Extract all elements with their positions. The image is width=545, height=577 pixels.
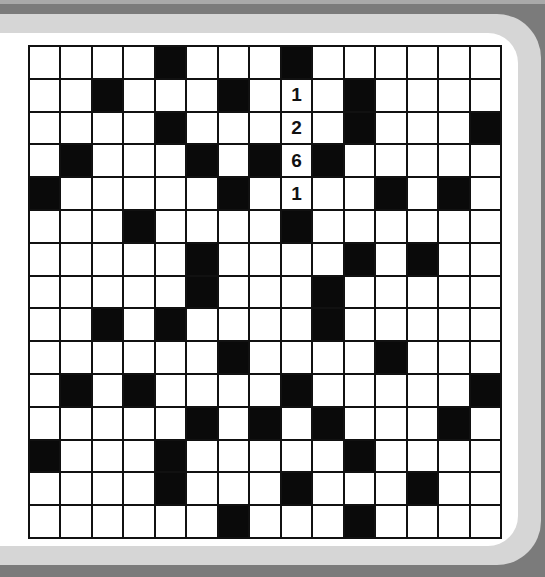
- grid-cell[interactable]: [124, 342, 153, 373]
- grid-cell[interactable]: [61, 506, 90, 537]
- grid-cell[interactable]: [408, 506, 437, 537]
- grid-cell[interactable]: [408, 408, 437, 439]
- grid-cell[interactable]: [124, 473, 153, 504]
- grid-cell[interactable]: [124, 408, 153, 439]
- grid-cell[interactable]: [250, 211, 279, 242]
- grid-cell[interactable]: [313, 80, 342, 111]
- grid-cell[interactable]: [250, 375, 279, 406]
- grid-cell[interactable]: [250, 309, 279, 340]
- grid-cell[interactable]: 2: [282, 113, 311, 144]
- grid-cell[interactable]: 6: [282, 145, 311, 176]
- grid-cell[interactable]: [471, 145, 500, 176]
- grid-cell[interactable]: [471, 80, 500, 111]
- grid-cell[interactable]: [250, 441, 279, 472]
- grid-cell[interactable]: [345, 47, 374, 78]
- grid-cell[interactable]: [250, 342, 279, 373]
- grid-cell[interactable]: [156, 244, 185, 275]
- grid-cell[interactable]: [219, 441, 248, 472]
- grid-cell[interactable]: [219, 145, 248, 176]
- grid-cell[interactable]: [187, 80, 216, 111]
- grid-cell[interactable]: [376, 244, 405, 275]
- grid-cell[interactable]: [187, 441, 216, 472]
- grid-cell[interactable]: [219, 277, 248, 308]
- grid-cell[interactable]: [282, 244, 311, 275]
- grid-cell[interactable]: [156, 178, 185, 209]
- grid-cell[interactable]: [219, 47, 248, 78]
- grid-cell[interactable]: [61, 47, 90, 78]
- grid-cell[interactable]: [250, 113, 279, 144]
- grid-cell[interactable]: [376, 211, 405, 242]
- grid-cell[interactable]: [124, 113, 153, 144]
- grid-cell[interactable]: [219, 244, 248, 275]
- grid-cell[interactable]: [376, 441, 405, 472]
- grid-cell[interactable]: [30, 506, 59, 537]
- grid-cell[interactable]: [93, 342, 122, 373]
- grid-cell[interactable]: [93, 441, 122, 472]
- grid-cell[interactable]: 1: [282, 178, 311, 209]
- grid-cell[interactable]: [282, 408, 311, 439]
- grid-cell[interactable]: [439, 244, 468, 275]
- grid-cell[interactable]: [439, 211, 468, 242]
- grid-cell[interactable]: [156, 277, 185, 308]
- grid-cell[interactable]: [187, 47, 216, 78]
- grid-cell[interactable]: [471, 244, 500, 275]
- grid-cell[interactable]: [30, 244, 59, 275]
- grid-cell[interactable]: [471, 277, 500, 308]
- grid-cell[interactable]: [124, 47, 153, 78]
- grid-cell[interactable]: [219, 408, 248, 439]
- grid-cell[interactable]: [408, 309, 437, 340]
- grid-cell[interactable]: [187, 178, 216, 209]
- grid-cell[interactable]: [250, 47, 279, 78]
- grid-cell[interactable]: [408, 113, 437, 144]
- grid-cell[interactable]: [313, 441, 342, 472]
- grid-cell[interactable]: [439, 80, 468, 111]
- grid-cell[interactable]: [93, 244, 122, 275]
- grid-cell[interactable]: [124, 178, 153, 209]
- grid-cell[interactable]: [61, 408, 90, 439]
- grid-cell[interactable]: [376, 113, 405, 144]
- grid-cell[interactable]: [439, 47, 468, 78]
- grid-cell[interactable]: [471, 309, 500, 340]
- grid-cell[interactable]: [61, 244, 90, 275]
- grid-cell[interactable]: [93, 145, 122, 176]
- grid-cell[interactable]: [219, 211, 248, 242]
- grid-cell[interactable]: [124, 244, 153, 275]
- grid-cell[interactable]: [471, 408, 500, 439]
- grid-cell[interactable]: [61, 211, 90, 242]
- grid-cell[interactable]: [408, 145, 437, 176]
- grid-cell[interactable]: [219, 309, 248, 340]
- grid-cell[interactable]: [156, 342, 185, 373]
- grid-cell[interactable]: [124, 309, 153, 340]
- grid-cell[interactable]: [471, 441, 500, 472]
- grid-cell[interactable]: [439, 309, 468, 340]
- grid-cell[interactable]: [250, 80, 279, 111]
- grid-cell[interactable]: [408, 342, 437, 373]
- grid-cell[interactable]: [471, 506, 500, 537]
- grid-cell[interactable]: [282, 441, 311, 472]
- grid-cell[interactable]: [30, 408, 59, 439]
- grid-cell[interactable]: [30, 277, 59, 308]
- grid-cell[interactable]: [124, 441, 153, 472]
- grid-cell[interactable]: [124, 277, 153, 308]
- grid-cell[interactable]: [471, 211, 500, 242]
- grid-cell[interactable]: [408, 211, 437, 242]
- grid-cell[interactable]: [345, 342, 374, 373]
- grid-cell[interactable]: [30, 145, 59, 176]
- grid-cell[interactable]: 1: [282, 80, 311, 111]
- grid-cell[interactable]: [408, 441, 437, 472]
- grid-cell[interactable]: [345, 309, 374, 340]
- grid-cell[interactable]: [250, 277, 279, 308]
- grid-cell[interactable]: [408, 47, 437, 78]
- grid-cell[interactable]: [187, 113, 216, 144]
- grid-cell[interactable]: [313, 375, 342, 406]
- grid-cell[interactable]: [219, 473, 248, 504]
- grid-cell[interactable]: [156, 408, 185, 439]
- grid-cell[interactable]: [313, 506, 342, 537]
- grid-cell[interactable]: [439, 375, 468, 406]
- grid-cell[interactable]: [345, 473, 374, 504]
- grid-cell[interactable]: [376, 408, 405, 439]
- grid-cell[interactable]: [61, 342, 90, 373]
- grid-cell[interactable]: [282, 309, 311, 340]
- grid-cell[interactable]: [124, 506, 153, 537]
- grid-cell[interactable]: [187, 211, 216, 242]
